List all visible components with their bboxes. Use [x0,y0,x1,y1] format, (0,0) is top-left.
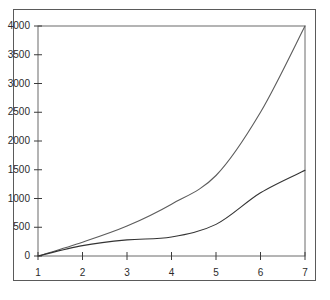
plot-canvas [0,0,330,300]
y-tick-label: 4000 [0,21,30,31]
x-tick-label: 5 [213,268,219,278]
x-tick-label: 4 [169,268,175,278]
x-tick-label: 3 [124,268,130,278]
plot-frame-group [38,26,305,256]
y-tick-label: 3000 [0,79,30,89]
y-tick-label: 2000 [0,136,30,146]
y-tick-label: 500 [0,222,30,232]
x-tick-label: 1 [35,268,41,278]
y-tick-label: 0 [0,251,30,261]
x-tick-label: 2 [80,268,86,278]
plot-frame [38,26,305,256]
y-tick-label: 1500 [0,165,30,175]
y-tick-label: 1000 [0,194,30,204]
y-tick-label: 3500 [0,50,30,60]
chart-figure: 05001000150020002500300035004000 1234567 [0,0,330,300]
x-tick-label: 7 [302,268,308,278]
y-tick-label: 2500 [0,107,30,117]
x-tick-label: 6 [258,268,264,278]
